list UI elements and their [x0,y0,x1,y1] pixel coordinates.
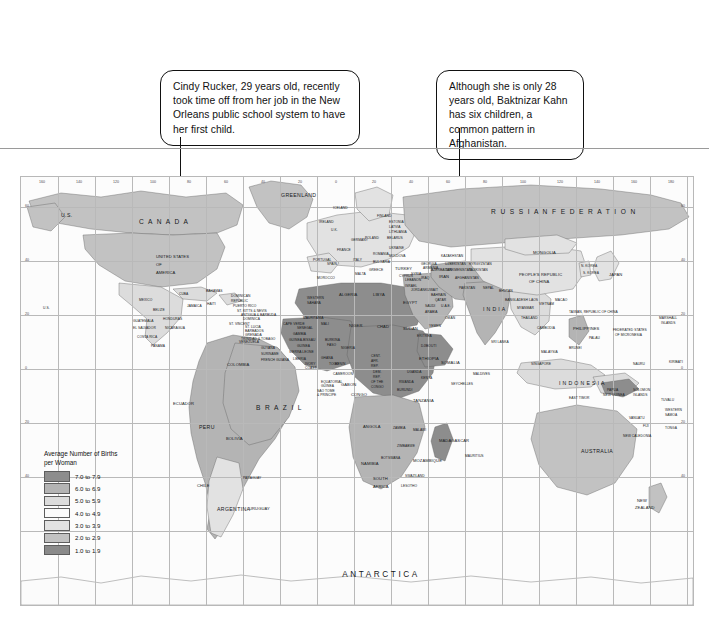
country-label: LATVIA [389,226,400,229]
country-label: SAUDI [425,305,435,308]
country-label: THAILAND [521,317,538,320]
country-label: BAHRAIN [431,294,446,297]
country-label: NICARAGUA [165,327,185,330]
country-label: REP. [371,365,378,368]
country-label: DOMINICA [243,318,260,321]
country-label: SAMOA [665,414,677,417]
country-label: SPAIN [327,263,337,266]
country-label: MAURITANIA [303,317,324,320]
country-label: OF CHINA [529,280,549,284]
country-label: SENEGAL [297,327,313,330]
lat-tick-label: 20 [681,420,685,424]
legend-title: Average Number of Births per Woman [44,450,126,467]
country-label: BHUTAN [499,290,513,293]
country-label: GUINEA [321,385,334,388]
country-label: ZEALAND [635,506,655,510]
country-label: ISLANDS [661,322,675,325]
country-label: SURINAME [261,353,279,356]
country-label: COAST [305,367,317,370]
country-label: BELIZE [153,309,165,312]
country-label: BOLIVIA [226,437,243,441]
country-label: DEM. [373,371,381,374]
lat-tick-label: 40 [681,258,685,262]
country-label: LIBERIA [293,358,306,361]
country-label: VANUATU [629,417,645,420]
lon-tick-label: 120 [113,180,119,184]
country-label: TAIWAN, REPUBLIC OF CHINA [569,311,618,314]
country-label: LESOTHO [401,485,417,488]
country-label: I N D O N E S I A [559,381,605,386]
country-label: COSTA RICA [137,336,157,339]
country-label: IRAN [439,275,449,279]
country-label: BENIN [335,363,345,366]
lon-tick-label: 120 [557,180,563,184]
country-label: KAZAKHSTAN [441,255,463,258]
country-label: TUVALU [661,399,674,402]
country-label: BURKINA [325,339,340,342]
country-label: SOLOMON [633,389,650,392]
country-label: FIJI [643,425,649,428]
country-label: NIGERIA [341,347,355,350]
country-label: GHANA [321,357,333,360]
lon-tick-label: 80 [483,180,487,184]
country-label: MEXICO [139,299,152,302]
legend-item: 2.0 to 2.9 [44,532,144,544]
lon-tick-label: 60 [224,180,228,184]
country-label: ZIMBABWE [397,445,415,448]
country-label: PAKISTAN [459,287,475,290]
legend-label: 4.0 to 4.9 [75,510,100,517]
country-label: BANGLADESH [505,299,528,302]
country-label: LAOS [529,299,538,302]
country-label: GUINEA-BISSAU [289,339,315,342]
country-label: S. KOREA [583,272,599,275]
country-label: SRI LANKA [491,341,509,344]
legend-item: 5.0 to 5.9 [44,495,144,507]
map-legend: Average Number of Births per Woman 7.0 t… [44,450,144,556]
country-label: U.S. [43,307,50,310]
country-label: U.A.E. [441,305,451,308]
map-page: Cindy Rucker, 29 years old, recently too… [0,0,709,626]
country-label: SEYCHELLES [451,383,473,386]
country-label: LEBANON [405,279,421,282]
country-label: MOLDOVA [389,255,406,258]
legend-swatch [44,496,70,506]
legend-item: 6.0 to 6.9 [44,482,144,494]
country-label: VENEZUELA [239,341,259,344]
country-label: SWAZILAND [405,475,425,478]
legend-swatch [44,545,70,555]
country-label: ARGENTINA [217,507,250,512]
country-label: BOTSWANA [381,457,400,460]
country-label: COLOMBIA [227,363,249,367]
country-label: RWANDA [399,381,414,384]
country-label: NEW CALEDONIA [623,435,651,438]
country-label: TONGA [665,427,677,430]
lat-tick-label: 40 [681,474,685,478]
legend-item: 3.0 to 3.9 [44,519,144,531]
country-label: LITHUANIA [389,231,407,234]
country-label: PAPUA [607,389,618,392]
country-label: CAPE VERDE [283,323,305,326]
country-label: OF MICRONESIA [615,334,642,337]
country-label: MOZAMBIQUE [413,459,442,463]
country-label: MAURITIUS [465,455,484,458]
country-label: GUATEMALA [133,320,154,323]
country-label: CENT. [371,355,381,358]
country-label: REPUBLIC [231,300,248,303]
country-label: YEMEN [429,325,441,328]
country-label: MONGOLIA [533,251,556,255]
country-label: FRANCE [337,249,351,252]
lat-tick-label: 40 [25,258,29,262]
country-label: MADAGASCAR [439,439,469,443]
country-label: AFGHANISTAN [455,277,479,280]
country-label: FRENCH GUIANA [261,359,289,362]
lon-tick-label: 80 [187,180,191,184]
country-label: U.S. [61,213,73,218]
country-label: ICELAND [333,207,348,210]
country-label: GABON [341,383,356,387]
country-label: MARSHALL [659,317,677,320]
country-label: OF THE [371,381,383,384]
country-label: MOROCCO [317,277,335,280]
country-label: PHILIPPINES [573,327,599,331]
lat-tick-label: 60 [25,204,29,208]
country-label: CYPRUS [399,275,413,278]
